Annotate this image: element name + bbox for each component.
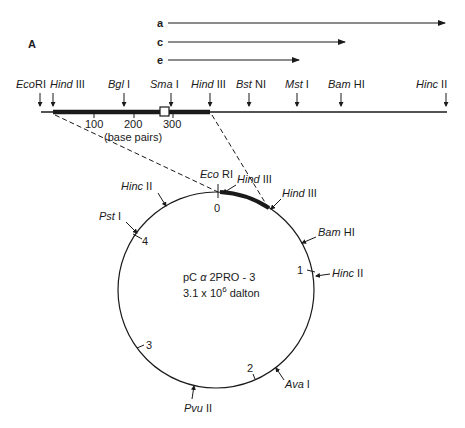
scale-unit-label: (base pairs)	[104, 131, 162, 143]
smai-box	[160, 107, 169, 116]
site-label-msti: Mst I	[285, 78, 309, 90]
panel-label: A	[28, 38, 36, 50]
site-label-bamhi: Bam HI	[328, 78, 365, 90]
transcript-e: e	[157, 54, 299, 66]
scale-bar: 100 200 300 (base pairs)	[85, 114, 181, 143]
kb-mark-3: 3	[146, 339, 152, 351]
linear-site-arrows	[40, 93, 446, 106]
site-label-bgli: Bgl I	[108, 78, 130, 90]
plasmid-site-hincii-right: Hinc II	[332, 267, 363, 279]
transcript-label-e: e	[157, 54, 163, 66]
site-label-hincii: Hinc II	[416, 78, 447, 90]
arrow-hindiii-2	[271, 199, 281, 209]
kb-tick-2	[253, 374, 255, 379]
site-label-ecori: EcoRI	[16, 78, 46, 90]
plasmid-site-bamhi: Bam HI	[318, 226, 355, 238]
kb-mark-1: 1	[297, 264, 303, 276]
arrow-psti	[126, 222, 137, 233]
arrow-pvuii	[192, 386, 194, 399]
arrow-bamhi	[302, 237, 316, 243]
plasmid-site-hindiii-1: Hind III	[237, 173, 272, 185]
scale-tick-100: 100	[85, 118, 103, 130]
site-label-smai: Sma I	[150, 78, 179, 90]
kb-mark-0: 0	[214, 202, 220, 214]
plasmid-site-hincii-left: Hinc II	[121, 180, 152, 192]
transcript-label-a: a	[157, 17, 164, 29]
kb-tick-1	[307, 270, 315, 272]
restriction-map-figure: A a c e EcoRI Hind III Bgl I Sma I Hind …	[0, 0, 465, 428]
plasmid-name: pC α 2PRO - 3	[183, 271, 255, 283]
transcript-label-c: c	[157, 36, 163, 48]
kb-mark-2: 2	[247, 362, 253, 374]
plasmid-size: 3.1 x 106 dalton	[183, 285, 260, 299]
scale-tick-300: 300	[163, 118, 181, 130]
plasmid-site-ecori: Eco RI	[200, 168, 233, 180]
transcript-a: a	[157, 17, 445, 29]
site-label-hindiii-2: Hind III	[191, 78, 226, 90]
linear-site-labels: EcoRI Hind III Bgl I Sma I Hind III Bst …	[16, 78, 447, 90]
kb-tick-3	[137, 345, 144, 348]
arrow-hincii-right	[316, 274, 330, 276]
plasmid-site-avai: Ava I	[284, 378, 310, 390]
plasmid-insert-arc	[220, 192, 269, 208]
site-label-bstni: Bst NI	[236, 78, 266, 90]
arrow-avai	[276, 368, 284, 380]
kb-mark-4: 4	[142, 235, 148, 247]
scale-tick-200: 200	[124, 118, 142, 130]
plasmid-site-psti: Pst I	[99, 210, 121, 222]
transcript-c: c	[157, 36, 345, 48]
plasmid-site-hindiii-2: Hind III	[282, 187, 317, 199]
site-label-hindiii-1: Hind III	[50, 78, 85, 90]
arrow-hincii-left	[158, 193, 166, 206]
plasmid-site-pvuii: Pvu II	[184, 402, 212, 414]
